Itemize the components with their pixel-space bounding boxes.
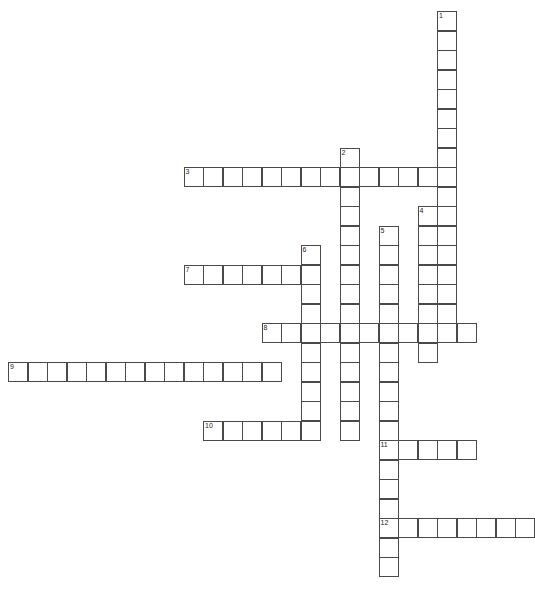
crossword-cell[interactable] [379,479,399,499]
crossword-cell[interactable] [437,440,457,460]
crossword-cell[interactable] [379,167,399,187]
crossword-cell[interactable] [184,362,204,382]
crossword-cell[interactable] [281,167,301,187]
crossword-cell[interactable] [418,284,438,304]
crossword-cell[interactable] [203,362,223,382]
crossword-cell-start-3[interactable]: 3 [184,167,204,187]
crossword-cell-start-8[interactable]: 8 [262,323,282,343]
crossword-cell[interactable] [379,382,399,402]
crossword-cell[interactable] [340,226,360,246]
crossword-cell[interactable] [379,245,399,265]
crossword-cell[interactable] [437,304,457,324]
crossword-cell[interactable] [281,265,301,285]
crossword-cell-start-11[interactable]: 11 [379,440,399,460]
crossword-cell[interactable] [418,226,438,246]
crossword-cell[interactable] [418,167,438,187]
crossword-cell[interactable] [437,245,457,265]
crossword-cell[interactable] [262,167,282,187]
crossword-cell[interactable] [379,362,399,382]
crossword-cell[interactable] [86,362,106,382]
crossword-cell[interactable] [379,557,399,577]
crossword-cell[interactable] [301,167,321,187]
crossword-cell[interactable] [496,518,516,538]
crossword-cell[interactable] [145,362,165,382]
crossword-cell-start-12[interactable]: 12 [379,518,399,538]
crossword-cell[interactable] [125,362,145,382]
crossword-cell[interactable] [379,284,399,304]
crossword-cell[interactable] [262,421,282,441]
crossword-cell[interactable] [340,245,360,265]
crossword-cell[interactable] [242,265,262,285]
crossword-cell-start-1[interactable]: 1 [437,11,457,31]
crossword-cell-start-10[interactable]: 10 [203,421,223,441]
crossword-cell[interactable] [242,421,262,441]
crossword-cell[interactable] [340,187,360,207]
crossword-cell[interactable] [340,265,360,285]
crossword-cell[interactable] [340,401,360,421]
crossword-cell[interactable] [379,304,399,324]
crossword-cell[interactable] [301,304,321,324]
crossword-cell-start-5[interactable]: 5 [379,226,399,246]
crossword-cell-start-2[interactable]: 2 [340,148,360,168]
crossword-cell[interactable] [437,226,457,246]
crossword-cell[interactable] [398,440,418,460]
crossword-cell[interactable] [28,362,48,382]
crossword-cell[interactable] [301,265,321,285]
crossword-cell[interactable] [340,167,360,187]
crossword-cell[interactable] [242,362,262,382]
crossword-cell[interactable] [301,323,321,343]
crossword-cell[interactable] [476,518,496,538]
crossword-cell[interactable] [398,323,418,343]
crossword-cell[interactable] [223,265,243,285]
crossword-cell[interactable] [340,323,360,343]
crossword-cell[interactable] [223,421,243,441]
crossword-cell[interactable] [262,265,282,285]
crossword-cell[interactable] [223,167,243,187]
crossword-cell[interactable] [418,265,438,285]
crossword-cell[interactable] [457,440,477,460]
crossword-cell[interactable] [437,284,457,304]
crossword-cell[interactable] [418,323,438,343]
crossword-cell[interactable] [457,323,477,343]
crossword-cell-start-7[interactable]: 7 [184,265,204,285]
crossword-cell[interactable] [437,148,457,168]
crossword-cell[interactable] [379,343,399,363]
crossword-cell[interactable] [340,304,360,324]
crossword-cell[interactable] [437,323,457,343]
crossword-cell[interactable] [340,284,360,304]
crossword-cell[interactable] [164,362,184,382]
crossword-cell[interactable] [398,167,418,187]
crossword-cell[interactable] [418,343,438,363]
crossword-cell[interactable] [379,265,399,285]
crossword-cell[interactable] [457,518,477,538]
crossword-cell[interactable] [340,421,360,441]
crossword-cell[interactable] [418,304,438,324]
crossword-cell[interactable] [301,362,321,382]
crossword-cell[interactable] [437,50,457,70]
crossword-cell[interactable] [418,440,438,460]
crossword-cell[interactable] [437,31,457,51]
crossword-cell[interactable] [320,323,340,343]
crossword-cell[interactable] [301,401,321,421]
crossword-cell[interactable] [437,128,457,148]
crossword-cell-start-6[interactable]: 6 [301,245,321,265]
crossword-cell[interactable] [515,518,535,538]
crossword-cell[interactable] [262,362,282,382]
crossword-cell[interactable] [437,206,457,226]
crossword-cell[interactable] [106,362,126,382]
crossword-cell[interactable] [418,245,438,265]
crossword-cell[interactable] [437,167,457,187]
crossword-cell[interactable] [281,421,301,441]
crossword-cell[interactable] [301,382,321,402]
crossword-cell[interactable] [301,421,321,441]
crossword-cell-start-4[interactable]: 4 [418,206,438,226]
crossword-cell[interactable] [418,518,438,538]
crossword-cell[interactable] [223,362,243,382]
crossword-cell[interactable] [203,265,223,285]
crossword-cell[interactable] [301,284,321,304]
crossword-cell[interactable] [301,343,321,363]
crossword-cell[interactable] [379,401,399,421]
crossword-cell[interactable] [281,323,301,343]
crossword-cell[interactable] [340,206,360,226]
